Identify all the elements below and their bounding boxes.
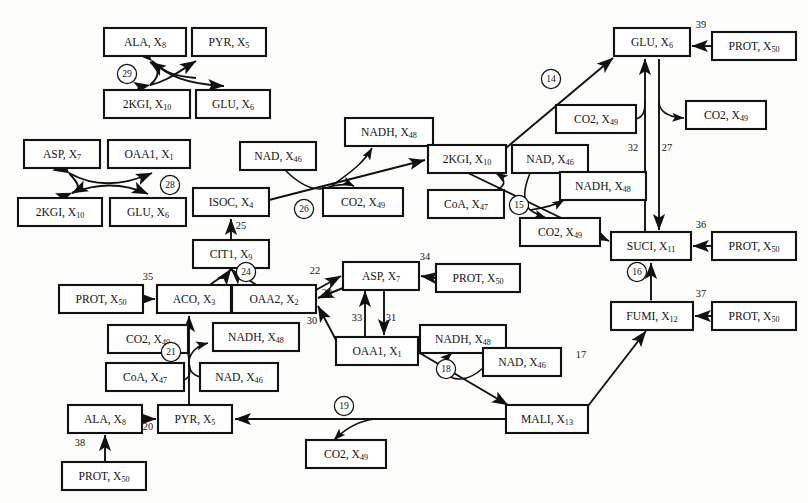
node-label: GLU, X6 bbox=[127, 205, 169, 220]
metabolite-node-suci[interactable]: SUCI, X11 bbox=[611, 232, 691, 260]
reaction-number-14[interactable]: 14 bbox=[541, 69, 560, 88]
edge-27-co2-out bbox=[659, 101, 684, 118]
metabolite-node-prot[interactable]: PROT, X50 bbox=[59, 285, 143, 313]
reaction-number-20[interactable]: 20 bbox=[143, 421, 153, 432]
reaction-number-28[interactable]: 28 bbox=[160, 175, 179, 194]
reaction-number-39[interactable]: 39 bbox=[696, 19, 706, 30]
metabolite-node-2kgi[interactable]: 2KGI, X10 bbox=[104, 90, 190, 118]
reaction-label: 30 bbox=[307, 315, 317, 326]
pathway-diagram-canvas: ALA, X8PYR, X52KGI, X10GLU, X6ASP, X7OAA… bbox=[0, 0, 808, 503]
node-label: PYR, X5 bbox=[209, 35, 250, 50]
metabolite-node-isoc[interactable]: ISOC, X4 bbox=[193, 188, 269, 216]
node-label: ALA, X8 bbox=[124, 35, 166, 50]
metabolite-node-nad[interactable]: NAD, X46 bbox=[200, 363, 278, 391]
reaction-number-19[interactable]: 19 bbox=[334, 396, 353, 415]
metabolite-node-prot[interactable]: PROT, X50 bbox=[712, 302, 796, 330]
reaction-label: 25 bbox=[236, 220, 246, 231]
reaction-number-23[interactable]: 23 bbox=[322, 287, 332, 298]
metabolite-node-asp[interactable]: ASP, X7 bbox=[343, 262, 419, 290]
metabolite-node-ala[interactable]: ALA, X8 bbox=[104, 28, 186, 56]
reaction-number-22[interactable]: 22 bbox=[310, 265, 320, 276]
reaction-number-18[interactable]: 18 bbox=[436, 359, 455, 378]
node-label: ASP, X7 bbox=[362, 269, 400, 284]
edge-32-co2-in bbox=[636, 101, 645, 119]
reaction-label: 14 bbox=[546, 73, 556, 84]
reaction-number-29[interactable]: 29 bbox=[117, 64, 136, 83]
metabolite-node-co2[interactable]: CO2, X49 bbox=[520, 218, 600, 246]
metabolite-node-mali[interactable]: MALI, X13 bbox=[506, 405, 588, 433]
metabolite-node-glu[interactable]: GLU, X6 bbox=[614, 28, 690, 56]
reaction-number-25[interactable]: 25 bbox=[236, 220, 246, 231]
reaction-number-26[interactable]: 26 bbox=[294, 199, 313, 218]
metabolite-node-2kgi[interactable]: 2KGI, X10 bbox=[18, 198, 102, 226]
reaction-label: 28 bbox=[165, 179, 175, 190]
metabolite-node-asp[interactable]: ASP, X7 bbox=[24, 140, 100, 168]
node-label: ACO, X3 bbox=[173, 292, 216, 307]
reaction-number-17[interactable]: 17 bbox=[576, 349, 586, 360]
metabolite-node-nad[interactable]: NAD, X46 bbox=[512, 145, 588, 173]
metabolite-node-co2[interactable]: CO2, X49 bbox=[686, 101, 766, 129]
metabolite-node-cit1[interactable]: CIT1, X9 bbox=[193, 240, 269, 268]
metabolite-node-2kgi[interactable]: 2KGI, X10 bbox=[428, 145, 506, 173]
reaction-label: 20 bbox=[143, 421, 153, 432]
metabolite-node-coa[interactable]: CoA, X47 bbox=[428, 190, 504, 218]
reaction-label: 36 bbox=[696, 219, 706, 230]
reaction-label: 32 bbox=[628, 142, 638, 153]
metabolite-node-prot[interactable]: PROT, X50 bbox=[436, 264, 520, 292]
reaction-number-27[interactable]: 27 bbox=[662, 142, 672, 153]
edge-21-nad-in bbox=[189, 360, 200, 377]
reaction-number-21[interactable]: 21 bbox=[161, 342, 180, 361]
metabolite-node-co2[interactable]: CO2, X49 bbox=[556, 105, 636, 133]
node-label: PYR, X5 bbox=[175, 412, 216, 427]
edge-28-cross-b bbox=[72, 186, 148, 194]
metabolite-node-fumi[interactable]: FUMI, X12 bbox=[611, 302, 693, 330]
node-label: ALA, X8 bbox=[84, 412, 126, 427]
reaction-label: 35 bbox=[143, 271, 153, 282]
metabolite-node-nad[interactable]: NAD, X46 bbox=[240, 142, 316, 170]
reaction-number-34[interactable]: 34 bbox=[420, 251, 431, 262]
reaction-number-37[interactable]: 37 bbox=[696, 288, 706, 299]
reaction-number-33[interactable]: 33 bbox=[352, 312, 362, 323]
metabolite-node-nad[interactable]: NAD, X46 bbox=[483, 348, 561, 376]
reaction-number-35[interactable]: 35 bbox=[143, 271, 153, 282]
metabolite-node-prot[interactable]: PROT, X50 bbox=[62, 462, 146, 490]
metabolite-node-oaa1[interactable]: OAA1, X1 bbox=[108, 140, 190, 168]
reaction-label: 18 bbox=[441, 363, 451, 374]
metabolite-node-prot[interactable]: PROT, X50 bbox=[712, 32, 796, 60]
metabolite-node-glu[interactable]: GLU, X6 bbox=[110, 198, 186, 226]
reaction-number-30[interactable]: 30 bbox=[307, 315, 317, 326]
metabolite-node-pyr[interactable]: PYR, X5 bbox=[192, 28, 266, 56]
metabolite-node-ala[interactable]: ALA, X8 bbox=[68, 405, 142, 433]
metabolite-node-aco[interactable]: ACO, X3 bbox=[157, 285, 231, 313]
edge-17-mali-fumi bbox=[588, 331, 646, 406]
reaction-number-36[interactable]: 36 bbox=[696, 219, 706, 230]
reaction-number-15[interactable]: 15 bbox=[509, 195, 528, 214]
reaction-number-32[interactable]: 32 bbox=[628, 142, 638, 153]
reaction-number-24[interactable]: 24 bbox=[236, 262, 255, 281]
reaction-number-31[interactable]: 31 bbox=[386, 312, 396, 323]
reaction-label: 19 bbox=[339, 400, 349, 411]
metabolite-node-pyr[interactable]: PYR, X5 bbox=[158, 405, 232, 433]
metabolite-node-coa[interactable]: CoA, X47 bbox=[106, 363, 184, 391]
reaction-number-16[interactable]: 16 bbox=[627, 262, 646, 281]
reaction-number-38[interactable]: 38 bbox=[75, 437, 85, 448]
reaction-label: 17 bbox=[576, 349, 586, 360]
metabolite-node-nadh[interactable]: NADH, X48 bbox=[213, 323, 299, 351]
reaction-label: 31 bbox=[386, 312, 396, 323]
reaction-label: 24 bbox=[241, 266, 251, 277]
reaction-label: 39 bbox=[696, 19, 706, 30]
metabolite-node-prot[interactable]: PROT, X50 bbox=[712, 232, 796, 260]
node-label: OAA1, X1 bbox=[352, 344, 401, 359]
metabolite-node-oaa2[interactable]: OAA2, X2 bbox=[232, 285, 316, 313]
edge-26-co2-out bbox=[332, 185, 354, 187]
metabolite-node-co2[interactable]: CO2, X49 bbox=[306, 440, 386, 468]
node-label: GLU, X6 bbox=[212, 97, 254, 112]
reaction-label: 22 bbox=[310, 265, 320, 276]
metabolite-node-nadh[interactable]: NADH, X48 bbox=[345, 118, 433, 146]
metabolite-node-oaa1[interactable]: OAA1, X1 bbox=[336, 337, 418, 365]
metabolite-node-nadh[interactable]: NADH, X48 bbox=[560, 172, 646, 200]
metabolite-node-co2[interactable]: CO2, X49 bbox=[323, 188, 403, 216]
node-label: NADH, X48 bbox=[361, 125, 417, 140]
edge-29-cross-lower bbox=[152, 61, 224, 86]
metabolite-node-glu[interactable]: GLU, X6 bbox=[196, 90, 270, 118]
